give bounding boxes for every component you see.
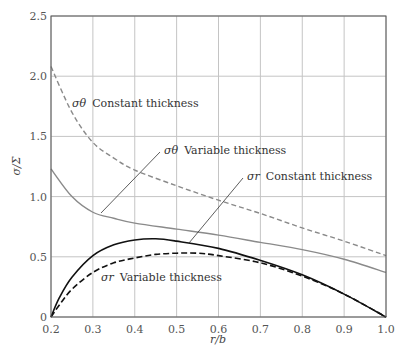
x-tick-label: 0.2 [42,323,60,336]
x-tick-label: 0.4 [126,323,144,336]
chart: 0.20.30.40.50.60.70.80.91.0 00.51.01.52.… [0,0,408,359]
annotation-sigma-theta-constant: σθConstant thickness [72,97,199,110]
x-tick-label: 0.3 [84,323,102,336]
x-tick-label: 0.7 [252,323,270,336]
x-tick-label: 1.0 [377,323,395,336]
y-tick-label: 1.0 [30,191,48,204]
y-tick-label: 1.5 [30,130,48,143]
annotation-symbol: σr [247,170,261,183]
annotation-sigma-theta-variable: σθVariable thickness [164,144,287,157]
annotation-sigma-r-variable: σrVariable thickness [101,271,222,284]
annotation-text: Constant thickness [266,170,373,183]
annotation-text: Variable thickness [183,144,286,157]
y-axis-label: σ/Σ [10,156,23,175]
annotation-symbol: σθ [72,97,87,110]
annotation-sigma-r-constant: σrConstant thickness [247,170,373,183]
x-axis-label: r/b [210,333,226,346]
x-tick-label: 0.9 [335,323,353,336]
annotation-symbol: σr [101,271,115,284]
y-tick-label: 0 [40,311,47,324]
y-tick-label: 0.5 [30,251,48,264]
y-tick-label: 2.0 [30,70,48,83]
leader-line-sigma-r-constant [189,178,243,243]
leader-line-sigma-theta-variable [101,152,160,213]
y-tick-labels: 00.51.01.52.02.5 [30,10,48,324]
y-tick-label: 2.5 [30,10,48,23]
annotation-text: Constant thickness [92,97,199,110]
x-tick-label: 0.8 [294,323,312,336]
x-tick-label: 0.5 [168,323,186,336]
annotation-symbol: σθ [164,144,179,157]
annotation-text: Variable thickness [119,271,222,284]
